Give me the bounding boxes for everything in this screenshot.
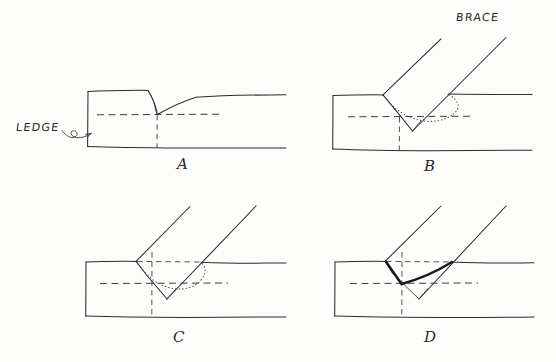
panel-label-d: D <box>424 328 437 346</box>
panel-d-drawing <box>335 206 534 317</box>
panel-c-centerline <box>100 283 228 284</box>
panel-label-b: B <box>424 157 436 175</box>
panel-d-centerline <box>350 283 478 284</box>
panel-d-layout-top <box>386 261 451 262</box>
diagram-sheet: LEDGE BRACE A B C D <box>0 0 556 362</box>
brace-label: BRACE <box>455 11 500 24</box>
panel-d-brace-foot-outer <box>385 261 428 299</box>
panel-b-drawing <box>333 38 532 151</box>
panel-a-centerline <box>97 114 219 115</box>
panel-b-hidden-edge-upper <box>448 94 458 114</box>
panel-b-brace-left-edge <box>383 39 441 95</box>
panel-c-brace-tip <box>167 289 176 299</box>
panel-b-centerline <box>348 116 474 117</box>
panel-d-brace-left-edge <box>385 206 441 261</box>
panel-c-drawing <box>86 206 286 317</box>
panel-a-beam-top-right <box>196 95 286 97</box>
panel-c-beam-bottom <box>86 316 286 317</box>
panel-b-beam-bottom <box>333 149 532 151</box>
panel-c-beam-top-left <box>86 261 136 262</box>
panel-c-hidden-edge-upper <box>201 262 205 280</box>
panel-a-ledge-slope <box>157 97 196 114</box>
panel-d-beam-bottom <box>335 316 534 317</box>
panel-c-brace-right-edge <box>167 206 256 299</box>
panel-b-brace-right-edge <box>413 38 507 132</box>
panel-c-beam-top-right <box>201 262 286 263</box>
panel-b-brace-tip <box>413 122 421 132</box>
panel-a-beam-bottom <box>88 147 286 149</box>
panel-d-brace-right-edge <box>419 206 506 299</box>
panel-b-brace-foot-outer <box>383 95 413 131</box>
panel-c-brace-left-edge <box>136 207 190 262</box>
panel-label-a: A <box>177 155 188 173</box>
panel-b-beam-top-left <box>333 95 383 96</box>
ledge-label: LEDGE <box>15 121 60 134</box>
panel-a-drawing <box>62 90 286 148</box>
diagram-canvas <box>0 0 556 362</box>
panel-d-beam-top-right <box>452 262 534 263</box>
panel-c-layout-top <box>137 261 200 262</box>
panel-a-beam-top-left <box>88 90 148 91</box>
panel-d-beam-top-left <box>335 261 385 262</box>
panel-label-c: C <box>173 328 185 346</box>
panel-d-bearing-line <box>386 262 452 284</box>
